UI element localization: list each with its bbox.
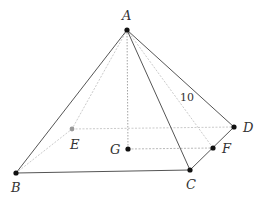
edge-ED [72, 127, 234, 129]
label-D: D [242, 120, 254, 135]
edge-AE [72, 30, 127, 129]
label-A: A [121, 8, 131, 23]
label-E: E [69, 137, 80, 152]
edge-AD [127, 30, 234, 127]
label-C: C [186, 177, 196, 192]
label-G: G [110, 142, 120, 157]
solid-edges [16, 30, 234, 173]
vertex-C [187, 167, 192, 172]
vertex-F [210, 145, 215, 150]
vertex-labels: A B C D E F G [10, 8, 254, 195]
vertex-G [125, 146, 130, 151]
vertex-B [13, 170, 18, 175]
edge-GF [128, 148, 213, 149]
hidden-edges [16, 30, 234, 173]
vertex-A [124, 27, 129, 32]
vertex-D [231, 124, 236, 129]
vertex-E [70, 127, 75, 132]
label-F: F [221, 141, 232, 156]
height-AG [127, 30, 128, 149]
edge-length-AD: 10 [180, 91, 194, 104]
edge-BC [16, 170, 190, 173]
label-B: B [10, 180, 21, 195]
edge-BE [16, 129, 72, 173]
vertices [13, 27, 236, 175]
pyramid-diagram: A B C D E F G 10 [0, 0, 266, 206]
edge-AF [127, 30, 213, 148]
